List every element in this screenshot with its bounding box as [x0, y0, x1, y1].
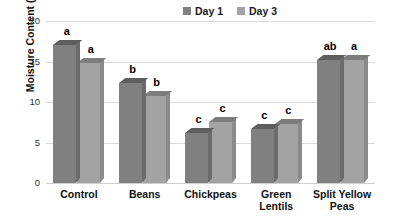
bar[interactable]	[209, 122, 232, 183]
x-axis-label-line: Green	[243, 188, 309, 200]
bar-significance-label: a	[64, 26, 70, 37]
bar-group: cc	[178, 21, 244, 183]
legend-entry-day-1: Day 1	[183, 6, 223, 17]
bar[interactable]	[317, 60, 340, 183]
bar-significance-label: c	[195, 114, 201, 125]
y-tick-label-10: 10	[29, 97, 40, 107]
plot-area: 05101520 aabbccccaba	[46, 21, 375, 183]
bar[interactable]	[77, 63, 100, 183]
bar-groups: aabbccccaba	[46, 21, 375, 183]
bar-significance-label: c	[219, 103, 225, 114]
bar-front-face	[209, 122, 232, 183]
x-axis-label: Control	[46, 188, 112, 200]
bar-side-face	[208, 128, 212, 183]
bar-group: aa	[46, 21, 112, 183]
x-axis-tick-labels: ControlBeansChickpeasGreenLentilsSplit Y…	[46, 188, 375, 222]
bar-front-face	[77, 63, 100, 183]
bar[interactable]	[53, 45, 76, 183]
bar-front-face	[251, 129, 274, 183]
bar[interactable]	[143, 96, 166, 183]
bar-group-bars: aba	[309, 21, 375, 183]
bar-side-face	[340, 55, 344, 183]
bar-side-face	[100, 58, 104, 183]
bar[interactable]	[341, 60, 364, 183]
bar-front-face	[317, 60, 340, 183]
bar-group-bars: aa	[46, 21, 112, 183]
x-axis-label-line: Beans	[112, 188, 178, 200]
bar-side-face	[76, 40, 80, 183]
bar-side-face	[364, 55, 368, 183]
bar-significance-label: b	[153, 77, 160, 88]
bar-front-face	[53, 45, 76, 183]
bar-front-face	[143, 96, 166, 183]
legend-label-day-1: Day 1	[195, 6, 223, 17]
legend-swatch-day-3	[237, 7, 245, 15]
bar[interactable]	[185, 133, 208, 183]
x-axis-label: GreenLentils	[243, 188, 309, 212]
bar[interactable]	[275, 124, 298, 183]
x-axis-label-line: Control	[46, 188, 112, 200]
legend-entry-day-3: Day 3	[237, 6, 277, 17]
bar-group-bars: cc	[178, 21, 244, 183]
bar-significance-label: b	[129, 64, 136, 75]
bar-significance-label: ab	[324, 41, 337, 52]
bar-significance-label: c	[261, 110, 267, 121]
bar-significance-label: a	[351, 41, 357, 52]
legend-swatch-day-1	[183, 7, 191, 15]
chart-legend: Day 1 Day 3	[183, 6, 277, 17]
bar-significance-label: a	[88, 44, 94, 55]
bar[interactable]	[119, 83, 142, 183]
bar-side-face	[232, 117, 236, 183]
bar-side-face	[298, 119, 302, 183]
bar-group-bars: cc	[243, 21, 309, 183]
x-axis-label-line: Lentils	[243, 200, 309, 212]
bar[interactable]	[251, 129, 274, 183]
x-axis-label-line: Peas	[309, 200, 375, 212]
bar-group: aba	[309, 21, 375, 183]
bar-front-face	[275, 124, 298, 183]
bar-front-face	[341, 60, 364, 183]
bar-front-face	[185, 133, 208, 183]
y-tick-label-5: 5	[35, 138, 40, 148]
bar-side-face	[166, 91, 170, 183]
y-tick-label-0: 0	[35, 178, 40, 188]
x-axis-label: Beans	[112, 188, 178, 200]
x-axis-label: Split YellowPeas	[309, 188, 375, 212]
bar-significance-label: c	[285, 105, 291, 116]
x-axis-label-line: Split Yellow	[309, 188, 375, 200]
bar-side-face	[274, 124, 278, 183]
bar-group: cc	[243, 21, 309, 183]
bar-group-bars: bb	[112, 21, 178, 183]
gridline-0	[46, 183, 375, 184]
bar-front-face	[119, 83, 142, 183]
bar-side-face	[142, 77, 146, 183]
x-axis-label: Chickpeas	[178, 188, 244, 200]
x-axis-label-line: Chickpeas	[178, 188, 244, 200]
legend-label-day-3: Day 3	[249, 6, 277, 17]
y-tick-label-15: 15	[29, 57, 40, 67]
y-tick-label-20: 20	[29, 16, 40, 26]
moisture-content-bar-chart: Day 1 Day 3 Moisture Content (g\100 g) 0…	[0, 0, 397, 223]
bar-group: bb	[112, 21, 178, 183]
